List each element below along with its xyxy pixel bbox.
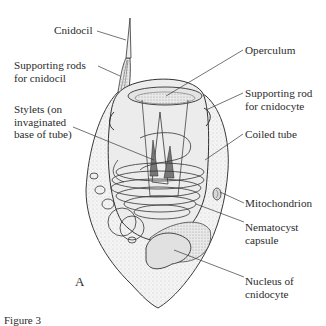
panel-letter: A	[75, 274, 84, 290]
label-coiled-tube: Coiled tube	[245, 128, 297, 141]
figure-caption: Figure 3	[4, 314, 41, 326]
label-cnidocil: Cnidocil	[54, 24, 93, 37]
mitochondrion	[213, 188, 221, 200]
label-supporting-rods-cnidocil: Supporting rods for cnidocil	[14, 59, 86, 84]
cnidocil	[126, 18, 131, 58]
label-nematocyst-capsule: Nematocyst capsule	[245, 221, 298, 246]
label-mitochondrion: Mitochondrion	[245, 197, 312, 210]
label-stylets: Stylets (on invaginated base of tube)	[14, 103, 72, 141]
label-operculum: Operculum	[245, 44, 295, 57]
label-nucleus: Nucleus of cnidocyte	[245, 275, 294, 300]
label-supporting-rod-cnidocyte: Supporting rod for cnidocyte	[245, 87, 312, 112]
